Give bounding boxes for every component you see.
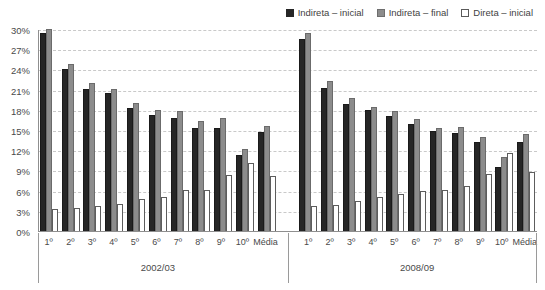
bar bbox=[464, 186, 470, 232]
bar bbox=[529, 172, 535, 232]
y-axis-tick-label: 27% bbox=[11, 45, 30, 56]
category-label: Média bbox=[253, 233, 278, 251]
category-label: 9º bbox=[469, 233, 491, 251]
bar-cluster bbox=[212, 30, 234, 232]
bar bbox=[161, 197, 167, 232]
x-axis-line bbox=[38, 231, 537, 232]
y-axis-tick-label: 12% bbox=[11, 146, 30, 157]
bar bbox=[74, 208, 80, 232]
bar-cluster bbox=[125, 30, 147, 232]
category-label: 4º bbox=[362, 233, 384, 251]
group-label-wrap: 2008/09 bbox=[297, 251, 537, 283]
plot-area bbox=[38, 30, 537, 232]
legend-item-indireta-inicial: Indireta – inicial bbox=[286, 7, 364, 18]
legend-item-direta-inicial: Direta – inicial bbox=[461, 7, 533, 18]
bar-cluster bbox=[319, 30, 341, 232]
bar bbox=[420, 191, 426, 232]
bar-group-2002-03 bbox=[38, 30, 278, 232]
y-axis-tick-label: 24% bbox=[11, 65, 30, 76]
gray-square-icon bbox=[377, 9, 385, 17]
bar bbox=[333, 205, 339, 232]
category-label: 4º bbox=[103, 233, 125, 251]
bar-cluster bbox=[82, 30, 104, 232]
category-label: 7º bbox=[167, 233, 189, 251]
category-label: 5º bbox=[383, 233, 405, 251]
category-label: 1º bbox=[38, 233, 60, 251]
bar-cluster bbox=[191, 30, 213, 232]
bar bbox=[270, 176, 276, 232]
category-label: 7º bbox=[426, 233, 448, 251]
category-label: 3º bbox=[81, 233, 103, 251]
bar-cluster bbox=[256, 30, 278, 232]
category-label: 2º bbox=[319, 233, 341, 251]
legend-label-indireta-final: Indireta – final bbox=[389, 7, 449, 18]
bar-cluster bbox=[297, 30, 319, 232]
bar bbox=[117, 204, 123, 232]
bar-cluster bbox=[60, 30, 82, 232]
category-label: Média bbox=[512, 233, 537, 251]
bar bbox=[377, 197, 383, 232]
bar-cluster bbox=[384, 30, 406, 232]
bar bbox=[204, 190, 210, 232]
category-label: 6º bbox=[146, 233, 168, 251]
y-axis-tick-label: 15% bbox=[11, 126, 30, 137]
chart-legend: Indireta – inicial Indireta – final Dire… bbox=[286, 7, 533, 18]
category-label-group: 1º2º3º4º5º6º7º8º9º10ºMédia bbox=[38, 233, 278, 251]
bar bbox=[46, 29, 52, 232]
bar-cluster bbox=[103, 30, 125, 232]
y-axis-tick-label: 9% bbox=[16, 166, 30, 177]
y-axis-tick-label: 30% bbox=[11, 25, 30, 36]
bar-cluster bbox=[450, 30, 472, 232]
white-square-icon bbox=[461, 9, 469, 17]
bar-group-2008-09 bbox=[297, 30, 537, 232]
bar bbox=[52, 209, 58, 232]
bar-cluster bbox=[428, 30, 450, 232]
bar bbox=[183, 190, 189, 232]
y-axis-tick-label: 0% bbox=[16, 227, 30, 238]
bar bbox=[311, 206, 317, 232]
group-divider bbox=[288, 233, 289, 283]
category-label: 5º bbox=[124, 233, 146, 251]
bar-cluster bbox=[169, 30, 191, 232]
bar bbox=[305, 33, 311, 232]
bar bbox=[68, 64, 74, 232]
bar-cluster bbox=[38, 30, 60, 232]
category-label: 10º bbox=[232, 233, 254, 251]
category-label: 8º bbox=[189, 233, 211, 251]
legend-label-direta-inicial: Direta – inicial bbox=[473, 7, 533, 18]
bar-cluster bbox=[515, 30, 537, 232]
category-label: 9º bbox=[210, 233, 232, 251]
legend-label-indireta-inicial: Indireta – inicial bbox=[298, 7, 364, 18]
bar-cluster bbox=[363, 30, 385, 232]
bar-cluster bbox=[472, 30, 494, 232]
y-axis-tick-label: 21% bbox=[11, 85, 30, 96]
bar bbox=[95, 206, 101, 232]
bar bbox=[139, 199, 145, 232]
bar bbox=[226, 175, 232, 232]
bar bbox=[355, 201, 361, 232]
dark-square-icon bbox=[286, 9, 294, 17]
bars-layer bbox=[38, 30, 537, 232]
y-axis-tick-label: 18% bbox=[11, 105, 30, 116]
y-axis-line bbox=[38, 30, 39, 232]
category-label-group: 1º2º3º4º5º6º7º8º9º10ºMédia bbox=[297, 233, 537, 251]
bar-cluster bbox=[234, 30, 256, 232]
category-label: 2º bbox=[60, 233, 82, 251]
category-label: 10º bbox=[491, 233, 513, 251]
bar bbox=[398, 194, 404, 232]
group-label: 2002/03 bbox=[38, 251, 278, 283]
y-axis-tick-label: 6% bbox=[16, 186, 30, 197]
bar-cluster bbox=[493, 30, 515, 232]
y-axis-tick-label: 3% bbox=[16, 206, 30, 217]
y-axis-labels: 0%3%6%9%12%15%18%21%24%27%30% bbox=[0, 30, 34, 232]
category-label: 6º bbox=[405, 233, 427, 251]
category-label: 3º bbox=[340, 233, 362, 251]
category-label: 8º bbox=[448, 233, 470, 251]
bar bbox=[442, 190, 448, 232]
bar bbox=[248, 163, 254, 232]
group-label-wrap: 2002/03 bbox=[38, 251, 278, 283]
group-spacer bbox=[278, 30, 298, 232]
bar-cluster bbox=[341, 30, 363, 232]
axis-divider-right bbox=[536, 233, 537, 283]
bar-cluster bbox=[406, 30, 428, 232]
